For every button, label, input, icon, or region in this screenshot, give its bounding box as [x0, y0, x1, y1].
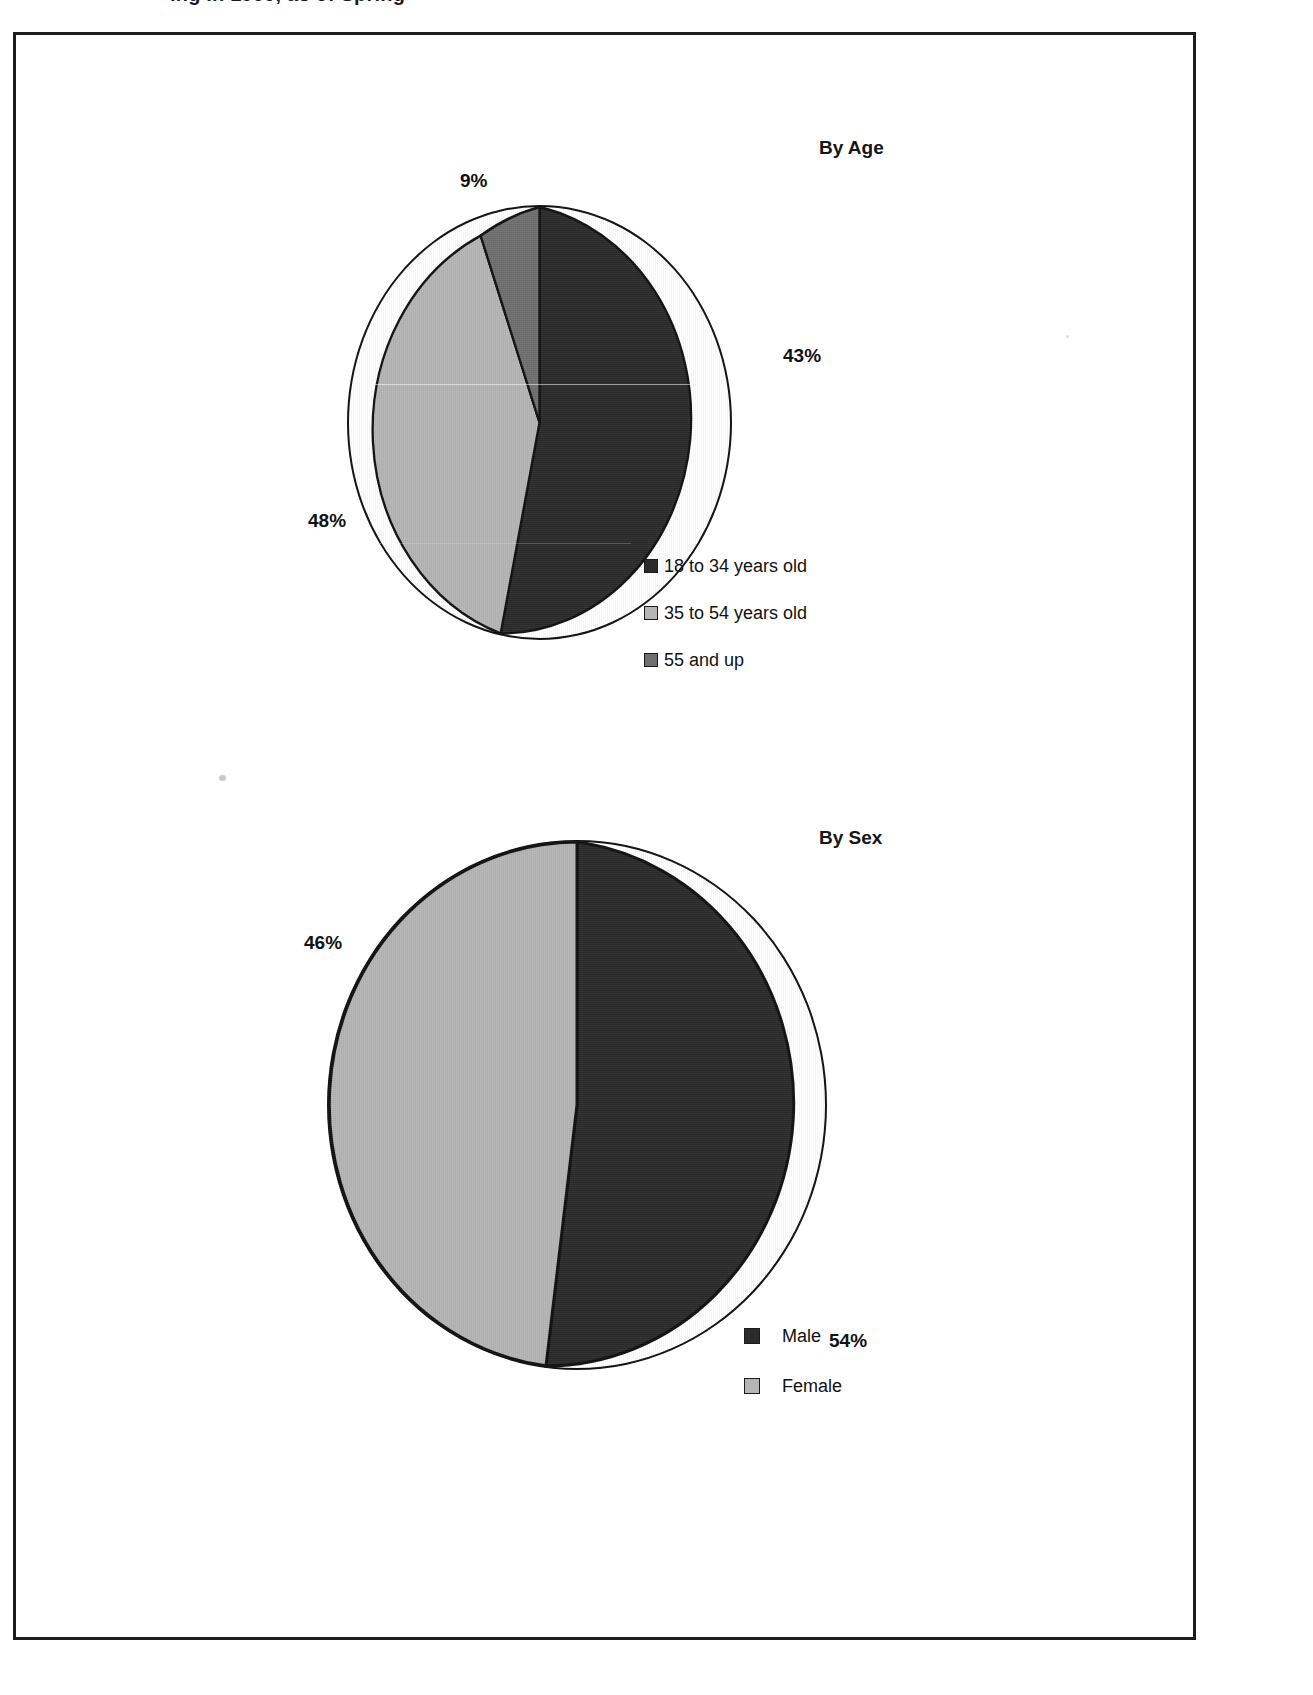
legend-swatch-icon [744, 1378, 760, 1394]
chart-title-by-age: By Age [819, 137, 884, 159]
pie-slice-female[interactable] [329, 842, 577, 1366]
legend-label: Female [782, 1376, 842, 1397]
legend-item-male[interactable]: Male [744, 1325, 842, 1347]
pie-slices-by-sex [329, 842, 825, 1368]
legend-item-18-to-34[interactable]: 18 to 34 years old [644, 555, 807, 577]
chart-by-age: By Age 9% 43% 48% 18 to [16, 95, 1199, 795]
pie-label-55-and-up: 9% [460, 170, 487, 192]
pie-label-35-to-54: 48% [308, 510, 346, 532]
pie-chart-by-sex [327, 840, 827, 1370]
pie-slice-male[interactable] [546, 842, 794, 1366]
pie-label-female: 46% [304, 932, 342, 954]
legend-swatch-icon [644, 653, 658, 667]
legend-label: 18 to 34 years old [664, 556, 807, 577]
legend-swatch-icon [744, 1328, 760, 1344]
document-page: ing in 1999, as of Spring By Age 9% 43% [0, 0, 1313, 1695]
pie-label-18-to-34: 43% [783, 345, 821, 367]
page-frame: By Age 9% 43% 48% 18 to [13, 32, 1196, 1640]
legend-swatch-icon [644, 606, 658, 620]
page-title: ing in 1999, as of Spring [170, 0, 405, 6]
legend-swatch-icon [644, 559, 658, 573]
legend-label: 55 and up [664, 650, 744, 671]
chart-title-by-sex: By Sex [819, 827, 882, 849]
legend-by-sex: Male Female [744, 1325, 842, 1425]
legend-item-55-and-up[interactable]: 55 and up [644, 649, 807, 671]
chart-by-sex: By Sex 46% 54% Male Female [16, 790, 1199, 1410]
legend-item-35-to-54[interactable]: 35 to 54 years old [644, 602, 807, 624]
legend-by-age: 18 to 34 years old 35 to 54 years old 55… [644, 555, 807, 696]
legend-label: 35 to 54 years old [664, 603, 807, 624]
legend-label: Male [782, 1326, 821, 1347]
legend-item-female[interactable]: Female [744, 1375, 842, 1397]
